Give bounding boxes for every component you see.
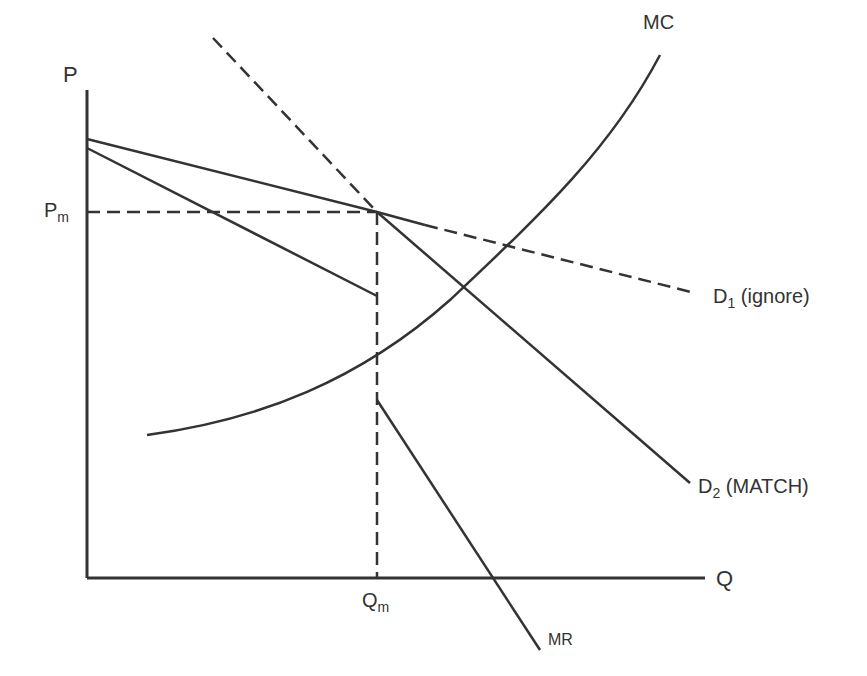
- mc-curve: [147, 55, 660, 435]
- x-axis-label: Q: [716, 568, 733, 590]
- d2-dashed-segment: [213, 38, 377, 212]
- mr-lower-segment: [377, 400, 540, 650]
- pm-label: Pm: [44, 200, 69, 224]
- d1-label: D1 (ignore): [713, 286, 810, 310]
- mr-upper-segment: [87, 148, 377, 296]
- qm-label: Qm: [362, 590, 389, 614]
- kinked-demand-diagram: P Q Pm Qm MC MR D1 (ignore) D2 (MATCH): [0, 0, 867, 676]
- mc-label: MC: [643, 12, 674, 32]
- d2-label: D2 (MATCH): [698, 476, 809, 500]
- d1-dashed-segment: [425, 225, 695, 293]
- y-axis-label: P: [63, 64, 78, 86]
- mr-label: MR: [548, 632, 573, 648]
- diagram-canvas: [0, 0, 867, 676]
